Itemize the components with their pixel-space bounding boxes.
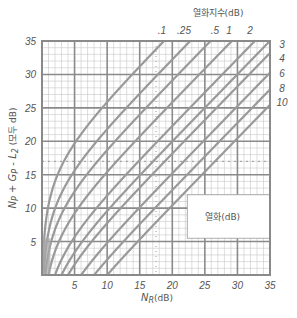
right-curve-labels: 346810 [276, 39, 288, 108]
x-tick-35: 35 [264, 280, 276, 291]
x-tick-15: 15 [134, 280, 146, 291]
x-tick-20: 20 [166, 280, 179, 291]
y-tick-30: 30 [25, 69, 37, 80]
x-axis-ticks: 5101520253035 [72, 280, 276, 291]
y-tick-35: 35 [25, 36, 37, 47]
y-tick-25: 25 [24, 103, 37, 114]
right-label-4: 4 [279, 53, 285, 64]
degradation-chart: 열화(dB) 5101520253035 5101520253035 .1.25… [0, 0, 297, 318]
curve-6 [81, 73, 270, 275]
top-label-.1: .1 [158, 25, 166, 36]
right-label-10: 10 [276, 97, 288, 108]
x-tick-30: 30 [232, 280, 244, 291]
top-label-2: 2 [246, 25, 253, 36]
right-label-8: 8 [279, 83, 285, 94]
top-curve-labels: .1.25.512 [158, 25, 253, 36]
degradation-curves [42, 41, 270, 275]
top-label-.5: .5 [211, 25, 220, 36]
right-label-6: 6 [279, 68, 285, 79]
top-legend-title: 열화지수(dB) [193, 8, 244, 18]
top-label-.25: .25 [177, 25, 191, 36]
box-label: 열화(dB) [205, 212, 240, 222]
x-tick-5: 5 [72, 280, 78, 291]
curve-10 [107, 105, 270, 275]
top-label-1: 1 [226, 25, 232, 36]
y-tick-5: 5 [30, 237, 36, 248]
right-label-3: 3 [279, 39, 285, 50]
curve-0.5 [45, 41, 210, 274]
y-tick-10: 10 [25, 203, 37, 214]
x-axis-label: NR(dB) [141, 292, 173, 305]
y-axis-ticks: 5101520253035 [24, 36, 37, 248]
x-tick-10: 10 [102, 280, 114, 291]
y-tick-15: 15 [25, 170, 37, 181]
y-axis-label: NP + GP - L2 (모두 dB) [7, 108, 20, 209]
x-tick-25: 25 [198, 280, 211, 291]
y-tick-20: 20 [24, 136, 37, 147]
